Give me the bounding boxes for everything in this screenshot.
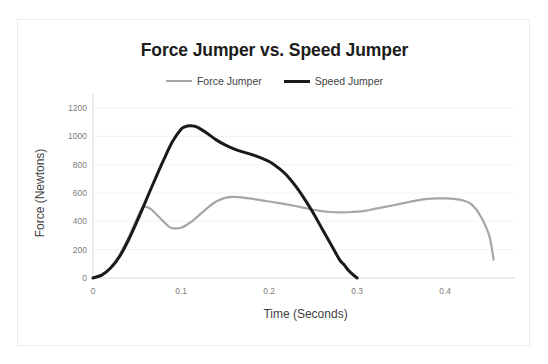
y-tick-label: 0 [82, 273, 87, 283]
x-tick-label: 0 [91, 286, 96, 296]
x-tick-label: 0.3 [351, 286, 363, 296]
y-tick-label: 200 [73, 245, 87, 255]
y-tick-label: 400 [73, 216, 87, 226]
series-line-speed-jumper [93, 126, 357, 278]
y-tick-label: 600 [73, 188, 87, 198]
y-tick-label: 800 [73, 160, 87, 170]
series-line-force-jumper [93, 197, 494, 278]
y-tick-labels: 020040060080010001200 [68, 103, 87, 283]
series-lines [93, 126, 494, 278]
x-tick-label: 0.2 [263, 286, 275, 296]
x-tick-label: 0.4 [439, 286, 451, 296]
chart-card: Force Jumper vs. Speed Jumper Force Jump… [17, 19, 530, 346]
plot-area: 020040060080010001200 00.10.20.30.4 Time… [18, 20, 531, 347]
x-tick-label: 0.1 [175, 286, 187, 296]
x-axis-title: Time (Seconds) [263, 307, 347, 321]
y-tick-label: 1000 [68, 131, 87, 141]
y-axis-title: Force (Newtons) [33, 149, 47, 238]
axis-titles: Time (Seconds)Force (Newtons) [33, 149, 348, 321]
y-tick-label: 1200 [68, 103, 87, 113]
x-tick-labels: 00.10.20.30.4 [91, 286, 452, 296]
